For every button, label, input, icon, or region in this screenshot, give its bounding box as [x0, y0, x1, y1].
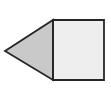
shape-figure-svg — [0, 0, 111, 100]
square-shape — [53, 20, 104, 80]
figure-canvas — [0, 0, 111, 100]
